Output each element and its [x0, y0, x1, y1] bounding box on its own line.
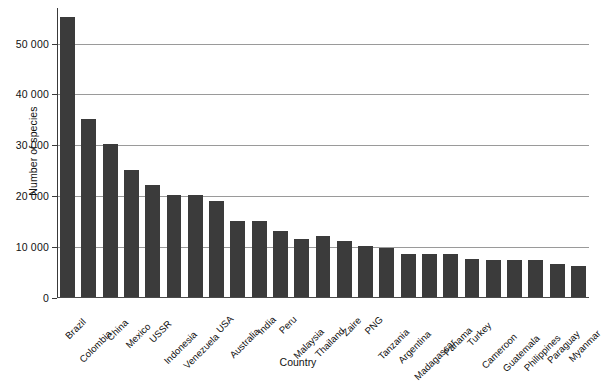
bar [188, 195, 203, 297]
x-tick-label: India [255, 314, 278, 337]
bar [103, 144, 118, 297]
bar [443, 254, 458, 297]
bars [57, 8, 589, 298]
bar [294, 239, 309, 298]
bar [486, 260, 501, 297]
bar [60, 17, 75, 297]
x-tick-label: Peru [277, 313, 299, 335]
bar [401, 254, 416, 297]
x-tick-label: USA [213, 313, 235, 335]
bar [507, 260, 522, 297]
y-tick-label: 40 000 [16, 88, 49, 100]
bar [273, 231, 288, 297]
x-tick-label: USSR [147, 318, 174, 345]
y-tick-label: 10 000 [16, 241, 49, 253]
x-tick-label: PNG [362, 314, 385, 337]
bar [124, 170, 139, 297]
y-tick-label: 50 000 [16, 38, 49, 50]
bar [209, 201, 224, 297]
y-tick-label: 0 [43, 292, 49, 304]
y-axis-line [57, 8, 58, 298]
bar [81, 119, 96, 297]
bar [571, 266, 586, 297]
bar [337, 241, 352, 297]
bar [145, 185, 160, 297]
bar [358, 246, 373, 297]
bar [252, 221, 267, 297]
plot-area: 010 00020 00030 00040 00050 000 [57, 8, 589, 298]
x-tick-label: Zaire [340, 315, 363, 338]
x-tick-label: Brazil [63, 316, 88, 341]
bar [550, 264, 565, 297]
bar [379, 248, 394, 297]
bar [230, 221, 245, 297]
x-axis-labels: BrazilColombiaChinaMexicoUSSRIndonesiaVe… [57, 299, 589, 359]
y-tick-label: 20 000 [16, 190, 49, 202]
y-tick-label: 30 000 [16, 139, 49, 151]
x-axis-line [57, 297, 589, 298]
x-axis-title: Country [0, 356, 596, 368]
bar [316, 236, 331, 297]
bar [465, 259, 480, 297]
bar [422, 254, 437, 297]
bar [528, 260, 543, 297]
bar [167, 195, 182, 297]
